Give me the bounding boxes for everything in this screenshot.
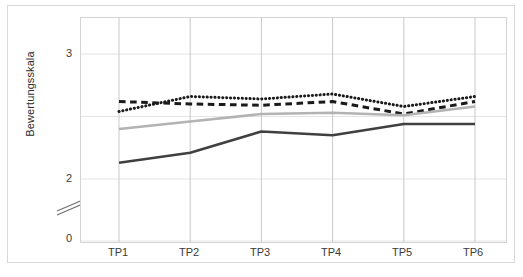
chart-screenshot: Bewertungsskala 3 2 0 TP1 TP2 TP3 TP4 TP…	[0, 0, 523, 277]
plot-area	[80, 17, 507, 243]
x-tick-label-tp2: TP2	[159, 246, 219, 258]
y-tick-label-2: 2	[50, 172, 72, 184]
x-tick-label-tp1: TP1	[88, 246, 148, 258]
x-tick-label-tp6: TP6	[443, 246, 503, 258]
gridlines	[81, 54, 506, 241]
chart-svg	[81, 18, 506, 242]
x-tick-label-tp5: TP5	[372, 246, 432, 258]
series-lines	[119, 94, 475, 163]
x-tick-label-tp3: TP3	[230, 246, 290, 258]
y-axis-title: Bewertungsskala	[24, 24, 36, 164]
category-gridlines	[119, 18, 475, 242]
series-dark-solid-series	[119, 124, 475, 163]
y-tick-label-0: 0	[50, 232, 72, 244]
x-tick-label-tp4: TP4	[301, 246, 361, 258]
y-tick-label-3: 3	[50, 47, 72, 59]
